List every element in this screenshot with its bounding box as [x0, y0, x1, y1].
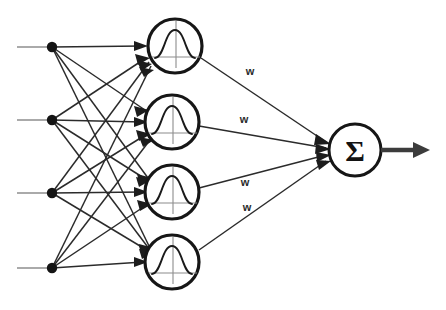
edge-in1-rbf4 — [52, 47, 150, 248]
weight-label-1: w — [245, 65, 255, 77]
arrowhead-rbf4-sum — [316, 160, 331, 170]
input-node-2[interactable] — [47, 115, 57, 125]
hidden-to-sum-edges — [199, 58, 331, 250]
input-node-4[interactable] — [47, 263, 57, 273]
rbf-neuron-2-outline — [145, 95, 199, 149]
edge-in4-rbf1 — [52, 66, 151, 268]
weight-label-4: w — [242, 201, 252, 213]
edge-in4-rbf4 — [52, 262, 143, 268]
rbf-neuron-4-outline — [145, 235, 199, 289]
rbf-neuron-3[interactable] — [145, 165, 199, 219]
edge-in3-rbf3 — [52, 192, 143, 193]
input-to-hidden-edges — [52, 46, 151, 268]
edge-in3-rbf1 — [52, 62, 149, 193]
rbf-network-diagram: w w w w Σ — [0, 0, 446, 310]
rbf-neuron-4[interactable] — [145, 235, 199, 289]
output-arrow — [381, 142, 430, 158]
edge-in1-rbf2 — [52, 47, 145, 110]
edge-in2-rbf2 — [52, 120, 143, 122]
rbf-neuron-1-outline — [148, 19, 202, 73]
input-node-1[interactable] — [47, 42, 57, 52]
edge-in3-rbf4 — [52, 193, 150, 252]
rbf-neuron-3-outline — [145, 165, 199, 219]
input-node-group — [47, 42, 57, 273]
edge-rbf4-sum — [199, 161, 326, 250]
edge-in4-rbf3 — [52, 204, 148, 268]
edge-in4-rbf2 — [52, 140, 150, 268]
arrowhead-in1-rbf1 — [134, 41, 148, 51]
diagram-canvas: w w w w Σ — [0, 0, 446, 310]
edge-in2-rbf4 — [52, 120, 150, 250]
weight-label-2: w — [239, 113, 249, 125]
sigma-icon: Σ — [345, 134, 365, 167]
rbf-neuron-2[interactable] — [145, 95, 199, 149]
weight-label-3: w — [240, 176, 250, 188]
rbf-neuron-1[interactable] — [148, 19, 202, 73]
edge-in1-rbf1 — [52, 46, 143, 47]
input-lead-group — [17, 47, 52, 268]
sum-node[interactable]: Σ — [329, 124, 381, 176]
edge-rbf3-sum — [199, 155, 326, 188]
input-node-3[interactable] — [47, 188, 57, 198]
output-arrow-head-icon — [413, 142, 430, 158]
